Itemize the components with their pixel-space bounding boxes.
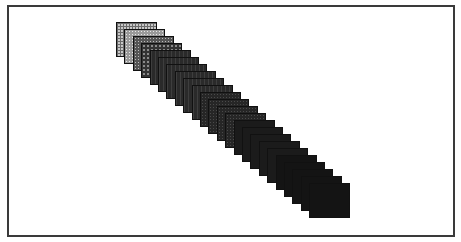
pattern-tile [309,183,350,218]
tile-cascade [0,0,461,242]
